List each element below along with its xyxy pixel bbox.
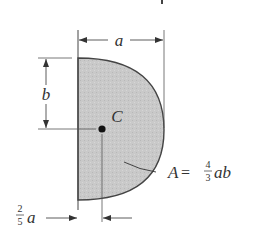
centroid-label: C [111,107,123,126]
area-equals: = [181,164,190,181]
centroid-point [98,125,105,132]
area-fraction-numerator: 4 [206,159,211,170]
dim-a-label: a [115,31,124,50]
centroid-diagram: a b C A = 4 3 ab 2 5 a [0,0,254,234]
offset-fraction-denominator: 5 [18,216,23,227]
area-fraction-denominator: 3 [206,172,211,183]
dim-b-label: b [42,85,51,104]
top-text-fragment [161,0,163,4]
offset-var: a [27,208,36,227]
area-rhs: ab [214,163,231,182]
offset-fraction-numerator: 2 [18,203,23,214]
area-lhs: A [167,163,179,182]
